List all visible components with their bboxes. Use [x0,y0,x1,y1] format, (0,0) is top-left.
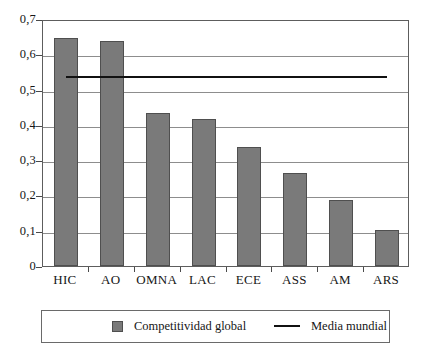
x-axis-tick-label-ass: ASS [271,272,317,287]
x-axis-tick-label-omna: OMNA [134,272,180,287]
gridline [43,56,408,57]
y-axis-tick-mark [36,267,42,268]
bar-ass [283,173,307,266]
legend-entry-2: Media mundial [274,319,387,333]
x-axis-tick-label-ao: AO [88,272,134,287]
bar-lac [192,119,216,266]
gridline [43,233,408,234]
y-axis-tick-label: 0,7 [2,13,36,25]
bar-chart-figure: 00,10,20,30,40,50,60,7 HICAOOMNALACECEAS… [0,0,431,355]
legend-line-swatch-icon [274,325,300,327]
bar-omna [146,113,170,266]
legend-label: Media mundial [311,319,387,333]
plot-area [42,20,409,267]
y-axis-tick-label: 0,2 [2,189,36,201]
mean-reference-line [66,76,387,78]
legend-label: Competitividad global [134,319,246,333]
gridline [43,92,408,93]
y-axis-tick-label: 0 [2,260,36,272]
y-axis-tick-label: 0,5 [2,84,36,96]
y-axis-tick-label: 0,6 [2,48,36,60]
x-axis-tick-label-lac: LAC [180,272,226,287]
bar-am [329,200,353,266]
gridline [43,127,408,128]
x-axis-tick-label-hic: HIC [42,272,88,287]
x-axis-tick-label-am: AM [317,272,363,287]
bar-ao [100,41,124,266]
bar-ars [375,230,399,266]
gridline [43,162,408,163]
bar-hic [54,38,78,266]
legend-entry-1: Competitividad global [112,319,246,333]
gridline [43,197,408,198]
x-axis-tick-label-ece: ECE [226,272,272,287]
y-axis-tick-label: 0,3 [2,154,36,166]
chart-legend: Competitividad globalMedia mundial [41,310,390,343]
x-axis-tick-label-ars: ARS [363,272,409,287]
legend-square-swatch-icon [112,321,123,332]
bar-ece [237,147,261,266]
y-axis-tick-label: 0,1 [2,225,36,237]
y-axis-tick-label: 0,4 [2,119,36,131]
